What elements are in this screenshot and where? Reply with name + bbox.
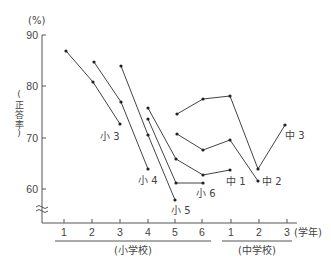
label-sho6: 小 6 (196, 188, 216, 199)
junior-label: (中学校) (238, 244, 276, 256)
line-chart: 90 80 70 60 (%) ( 正 答 率 ) 1 2 3 4 5 6 1 … (0, 0, 331, 270)
series-sho6: 小 6 (146, 117, 215, 199)
series-chu1: 中 1 (146, 106, 245, 187)
x-tick-j1: 1 (228, 226, 234, 238)
y-label-2: 答 (15, 109, 24, 120)
label-sho3: 小 3 (100, 131, 120, 142)
label-sho5: 小 5 (171, 205, 191, 216)
y-tick-90: 90 (26, 29, 38, 41)
label-chu3: 中 3 (285, 129, 305, 141)
x-tick-j2: 2 (256, 226, 262, 238)
svg-text:): ) (17, 128, 21, 138)
x-tick-6: 6 (199, 226, 205, 238)
y-tick-70: 70 (26, 132, 38, 144)
y-label-1: 正 (15, 100, 24, 110)
y-unit: (%) (28, 15, 45, 26)
x-tick-j3: 3 (284, 226, 290, 238)
x-tick-2: 2 (89, 226, 95, 238)
svg-text:(: ( (17, 89, 21, 99)
y-tick-80: 80 (26, 80, 38, 92)
series-chu3: 中 3 (175, 94, 304, 170)
x-unit: (学年) (294, 226, 322, 238)
x-tick-3: 3 (117, 226, 123, 238)
y-tick-60: 60 (26, 183, 38, 195)
x-axis: 1 2 3 4 5 6 1 2 3 (学年) (小学校) (中学校) (42, 219, 322, 256)
x-tick-1: 1 (61, 226, 67, 238)
label-sho4: 小 4 (138, 175, 158, 186)
series-sho5: 小 5 (119, 64, 190, 216)
x-tick-4: 4 (145, 226, 151, 238)
x-tick-5: 5 (172, 226, 178, 238)
elementary-label: (小学校) (114, 244, 152, 256)
label-chu1: 中 1 (226, 175, 246, 187)
series-sho3: 小 3 (64, 49, 121, 142)
label-chu2: 中 2 (262, 175, 282, 187)
y-axis: 90 80 70 60 (%) ( 正 答 率 ) (15, 15, 49, 223)
series-sho4: 小 4 (92, 60, 157, 186)
